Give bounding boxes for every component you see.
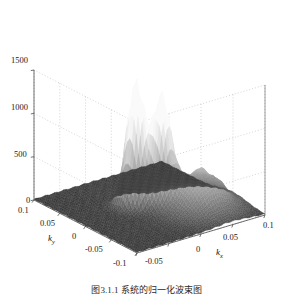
xtick-label-0.05: 0.05 bbox=[223, 233, 238, 242]
ztick-label-1000: 1000 bbox=[11, 103, 28, 112]
ytick-label-0.1: 0.1 bbox=[18, 206, 29, 215]
x-axis-title-subscript: x bbox=[220, 252, 223, 259]
y-axis-title-subscript: y bbox=[52, 238, 55, 245]
surface-mesh bbox=[34, 79, 265, 253]
y-axis-title: ky bbox=[48, 234, 55, 245]
xtick-label--0.05: -0.05 bbox=[145, 257, 163, 266]
figure-container: 1500 1000 500 0 0.1 0.05 0 -0.05 -0.1 -0… bbox=[0, 0, 293, 294]
figure-caption: 图3.1.1 系统的归一化波束图 bbox=[0, 284, 293, 294]
ztick-label-1500: 1500 bbox=[11, 56, 28, 65]
surface-plot-canvas bbox=[0, 0, 293, 294]
ytick-label-0.05: 0.05 bbox=[40, 219, 55, 228]
xtick-label-0: 0 bbox=[196, 245, 200, 254]
ztick-label-500: 500 bbox=[14, 150, 27, 159]
ytick-label--0.05: -0.05 bbox=[85, 245, 103, 254]
x-axis-title: kx bbox=[216, 248, 223, 259]
xtick-label-0.1: 0.1 bbox=[263, 221, 274, 230]
ztick-label-0: 0 bbox=[26, 196, 30, 205]
ytick-label--0.1: -0.1 bbox=[113, 259, 126, 268]
ytick-label-0: 0 bbox=[72, 232, 76, 241]
